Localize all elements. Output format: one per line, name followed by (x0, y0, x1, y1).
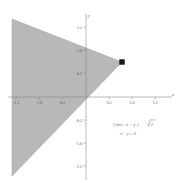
plot-figure: -1.5 -1.0 -0.5 0.5 1.0 1.5 1.5 1.0 0.5 -… (0, 0, 178, 183)
x-tick-label: -1.5 (13, 100, 19, 105)
y-tick-label: 1.5 (77, 25, 82, 30)
feasible-region-shading (12, 19, 122, 176)
x-tick-label: 0.5 (106, 100, 111, 105)
x-tick-label: 1.0 (129, 100, 134, 105)
x-tick-label: -1.0 (36, 100, 42, 105)
y-axis-label: y (87, 13, 90, 18)
y-tick-label: -0.5 (76, 118, 82, 123)
y-tick-label: -1.5 (76, 164, 82, 169)
x-axis-label: x (171, 92, 174, 97)
y-tick-label: 1.0 (77, 48, 82, 53)
optimal-point-marker (119, 59, 124, 64)
constraint-line-1: Cons : x + y ≤ (113, 122, 140, 127)
plot-canvas: -1.5 -1.0 -0.5 0.5 1.0 1.5 1.5 1.0 0.5 -… (0, 0, 178, 183)
x-tick-label: 1.5 (152, 100, 157, 105)
constraint-radicand: 2 (151, 122, 154, 127)
y-tick-label: -1.0 (76, 141, 82, 146)
constraint-line-2: x − y ≤ 0 (120, 131, 137, 136)
constraint-annotation: Cons : x + y ≤ 2 x − y ≤ 0 (113, 120, 155, 136)
y-tick-label: 0.5 (77, 71, 82, 76)
x-tick-label: -0.5 (59, 100, 65, 105)
